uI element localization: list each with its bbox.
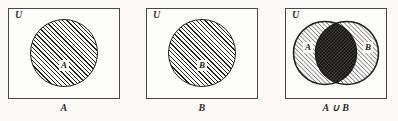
circle-stage: A: [8, 8, 120, 99]
set-circle-a: A: [30, 19, 98, 87]
venn-diagram-figure: U A A U B B U: [0, 0, 398, 121]
union-shading: [285, 8, 387, 99]
set-label-a: A: [59, 60, 69, 71]
panel-union-a-b: U: [285, 0, 387, 121]
panel-caption-a-union-b: A ∪ B: [285, 103, 387, 113]
set-circle-b: B: [168, 19, 236, 87]
set-label-b: B: [197, 60, 207, 71]
panel-caption-a: A: [8, 103, 120, 113]
set-label-b: B: [363, 42, 373, 53]
set-label-a: A: [303, 42, 313, 53]
panel-set-b: U B B: [146, 0, 258, 121]
circle-stage: B: [146, 8, 258, 99]
panel-caption-b: B: [146, 103, 258, 113]
panel-set-a: U A A: [8, 0, 120, 121]
